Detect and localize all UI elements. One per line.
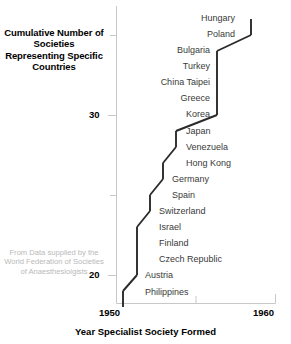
point-label-finland: Finland (159, 238, 189, 248)
point-label-czech-republic: Czech Republic (159, 254, 222, 264)
y-axis-ticks (108, 36, 117, 276)
point-label-turkey: Turkey (125, 61, 210, 71)
point-label-germany: Germany (172, 174, 209, 184)
point-label-hong-kong: Hong Kong (186, 158, 231, 168)
point-label-hungary: Hungary (150, 13, 235, 23)
point-label-venezuela: Venezuela (186, 142, 228, 152)
point-label-spain: Spain (172, 190, 195, 200)
point-label-bulgaria: Bulgaria (125, 45, 210, 55)
point-label-china-taipei: China Taipei (125, 77, 210, 87)
point-label-greece: Greece (125, 93, 210, 103)
point-label-philippines: Philippines (145, 287, 189, 297)
point-label-poland: Poland (150, 29, 235, 39)
point-label-israel: Israel (159, 222, 181, 232)
point-label-switzerland: Switzerland (159, 206, 206, 216)
point-label-japan: Japan (186, 126, 211, 136)
chart-canvas: Cumulative Number of Societies Represent… (0, 0, 291, 344)
point-label-austria: Austria (145, 270, 173, 280)
point-label-korea: Korea (125, 109, 210, 119)
